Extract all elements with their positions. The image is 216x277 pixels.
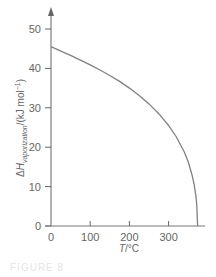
- y-tick-label: 50: [29, 23, 41, 35]
- x-tick-label: 0: [48, 231, 54, 243]
- x-tick-label: 300: [159, 231, 177, 243]
- y-axis-label: ΔHvaporization/(kJ mol−1): [14, 79, 29, 177]
- data-curve: [51, 47, 198, 226]
- enthalpy-vaporization-chart: 01020304050 0100200300 T/°C ΔHvaporizati…: [0, 0, 216, 277]
- x-tick-label: 100: [81, 231, 99, 243]
- y-tick-label: 40: [29, 62, 41, 74]
- y-axis-arrow-icon: [48, 7, 54, 16]
- y-tick-label: 10: [29, 181, 41, 193]
- x-axis-label: T/°C: [119, 243, 139, 254]
- x-axis-ticks: 0100200300: [48, 221, 178, 243]
- y-tick-label: 0: [35, 220, 41, 232]
- y-tick-label: 20: [29, 141, 41, 153]
- x-tick-label: 200: [120, 231, 138, 243]
- y-tick-label: 30: [29, 102, 41, 114]
- y-axis-ticks: 01020304050: [29, 23, 51, 232]
- figure-caption: FIGURE 8: [10, 262, 64, 273]
